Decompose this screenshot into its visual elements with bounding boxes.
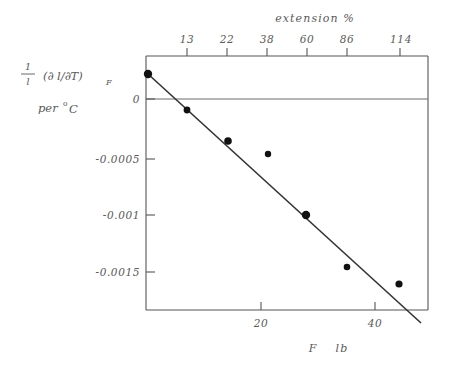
y-axis-fraction-denominator: l: [26, 76, 29, 87]
x-axis-ticks: [261, 302, 375, 310]
chart-svg: 13 22 38 60 86 114 extension % 0 -0.0005…: [0, 0, 455, 365]
y-tick-label-2: -0.001: [103, 209, 140, 221]
y-axis-derivative-expression: (∂ l/∂T): [43, 69, 83, 83]
data-point-0: [144, 70, 152, 78]
x-axis-title-symbol: F: [308, 342, 318, 355]
x-axis-tick-labels: 20 40: [253, 317, 383, 329]
y-tick-label-0: 0: [133, 93, 140, 105]
data-point-2: [224, 137, 232, 145]
data-points: [144, 70, 403, 288]
x-axis-title-unit: lb: [336, 342, 349, 355]
y-axis-derivative-subscript: F: [105, 78, 112, 87]
y-axis-fraction-numerator: 1: [25, 61, 31, 72]
y-tick-label-1: -0.0005: [96, 153, 141, 165]
top-axis-tick-labels: 13 22 38 60 86 114: [180, 33, 412, 45]
data-point-4: [302, 211, 310, 219]
y-axis-title: 1 l (∂ l/∂T) F per o C: [21, 61, 112, 116]
top-tick-label-1: 22: [219, 33, 235, 45]
x-axis-title: F lb: [308, 342, 349, 355]
top-tick-label-0: 13: [180, 33, 195, 45]
top-tick-label-5: 114: [390, 33, 412, 45]
y-tick-label-3: -0.0015: [96, 266, 141, 278]
top-tick-label-4: 86: [340, 33, 355, 45]
x-tick-label-1: 40: [367, 317, 383, 329]
plot-frame: [146, 56, 428, 310]
y-axis-unit-celsius: C: [69, 102, 78, 116]
y-axis-ticks: [146, 99, 155, 272]
y-axis-tick-labels: 0 -0.0005 -0.001 -0.0015: [96, 93, 141, 278]
data-point-3: [265, 151, 271, 157]
top-axis-ticks: [187, 48, 400, 56]
x-tick-label-0: 20: [253, 317, 269, 329]
top-axis-title: extension %: [275, 12, 355, 25]
data-point-1: [184, 107, 191, 114]
thermoelastic-chart-figure: 13 22 38 60 86 114 extension % 0 -0.0005…: [0, 0, 455, 365]
y-axis-unit-degree: o: [63, 99, 68, 108]
top-tick-label-2: 38: [260, 33, 275, 45]
data-point-6: [395, 280, 402, 287]
top-tick-label-3: 60: [300, 33, 315, 45]
y-axis-unit-per: per: [38, 101, 59, 115]
data-point-5: [344, 264, 351, 271]
